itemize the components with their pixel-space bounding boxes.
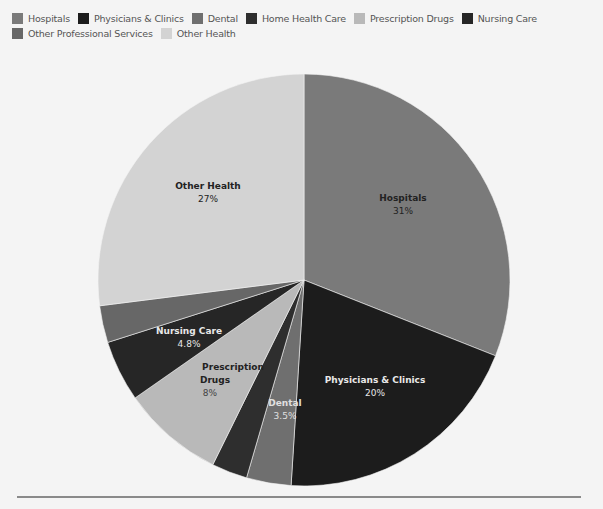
label-value: 4.8% xyxy=(178,339,201,349)
label-value: 31% xyxy=(393,206,413,216)
label-name: Physicians & Clinics xyxy=(325,375,426,385)
label-value: 3.5% xyxy=(274,411,297,421)
label-name: Dental xyxy=(268,398,301,408)
pie-chart: Hospitals 31% Physicians & Clinics 20% D… xyxy=(0,0,603,509)
label-name: Hospitals xyxy=(379,193,426,203)
pie-slices xyxy=(98,74,510,486)
label-name-line1: Prescription xyxy=(202,362,264,372)
label-value: 8% xyxy=(203,388,218,398)
label-name: Nursing Care xyxy=(156,326,222,336)
footer-divider xyxy=(17,496,581,498)
label-name: Other Health xyxy=(175,181,241,191)
label-value: 20% xyxy=(365,388,385,398)
label-name-line2: Drugs xyxy=(200,375,230,385)
label-value: 27% xyxy=(198,194,218,204)
